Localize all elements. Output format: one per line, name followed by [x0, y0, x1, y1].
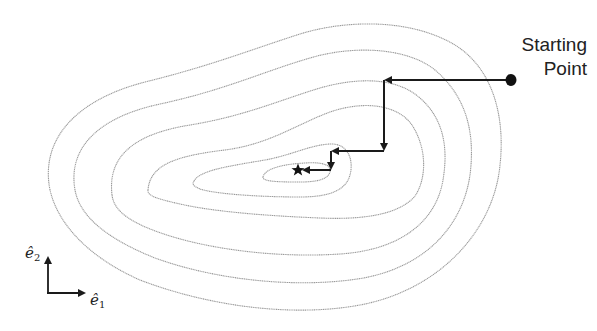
axis-e2-subscript: 2	[34, 252, 40, 263]
starting-point-label-line2: Point	[505, 57, 587, 81]
axis-e2-symbol: ê	[25, 244, 34, 262]
starting-point-label: Starting Point	[505, 33, 587, 81]
axis-e1-symbol: ê	[90, 291, 99, 309]
minimum-star-icon	[292, 164, 305, 176]
starting-point-label-line1: Starting	[505, 33, 587, 57]
contour-line-3	[112, 81, 446, 255]
contour-line-1	[48, 24, 501, 310]
axis-e1-subscript: 1	[99, 299, 105, 310]
axis-e1-label: ê1	[90, 291, 105, 310]
axis-e2-label: ê2	[25, 244, 40, 263]
contour-line-4	[148, 106, 424, 219]
